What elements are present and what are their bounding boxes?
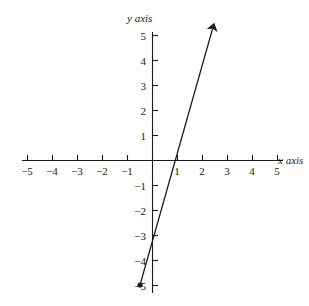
y-tick-label--4: −4 [134,255,146,267]
x-tick-label--5: −5 [21,165,33,177]
x-tick-label-5: 5 [274,165,280,177]
x-tick-label--4: −4 [46,165,58,177]
x-tick-label-1: 1 [174,165,180,177]
y-axis-label: y axis [126,12,152,24]
y-tick-label--2: −2 [134,205,146,217]
x-tick-label--1: −1 [121,165,133,177]
x-axis-tick-labels: −5 −4 −3 −2 −1 1 2 3 4 5 [21,165,280,177]
x-tick-label--2: −2 [96,165,108,177]
y-tick-label-5: 5 [141,30,147,42]
y-tick-label--1: −1 [134,180,146,192]
y-tick-label--3: −3 [134,230,146,242]
x-axis-label: x axis [277,154,303,166]
x-tick-label-3: 3 [224,165,230,177]
x-tick-label-2: 2 [199,165,205,177]
plotted-line [140,29,213,285]
line-start-point-marker [137,282,142,287]
x-tick-label--3: −3 [71,165,83,177]
y-tick-label-3: 3 [141,80,147,92]
graph-screenshot: −5 −4 −3 −2 −1 1 2 3 4 5 5 4 3 2 1 −1 −2… [0,0,309,306]
y-tick-label-1: 1 [141,130,147,142]
x-tick-label-4: 4 [249,165,255,177]
y-tick-label-2: 2 [141,105,147,117]
coordinate-plane-figure: −5 −4 −3 −2 −1 1 2 3 4 5 5 4 3 2 1 −1 −2… [0,0,309,306]
y-tick-label-4: 4 [141,55,147,67]
